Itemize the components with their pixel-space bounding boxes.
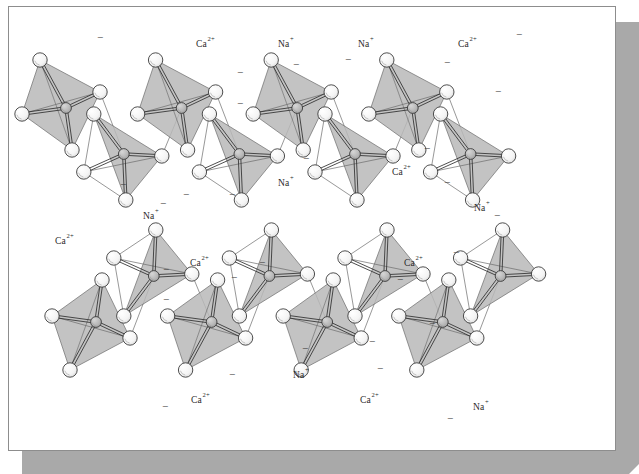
oxygen-atom — [185, 267, 199, 281]
charge-minus-mark: − — [259, 256, 265, 268]
silicon-atom — [234, 149, 245, 160]
silicon-atom — [437, 317, 448, 328]
ion-label-ca: Ca2+ — [360, 390, 379, 405]
oxygen-atom — [178, 363, 192, 377]
ion-label-ca: Ca2+ — [191, 390, 210, 405]
oxygen-atom — [442, 273, 456, 287]
oxygen-atom — [380, 223, 394, 237]
silicate-chain-diagram: −−−−−−−−−−−−−−−−−−−−−−−−−−−−−Ca2+Na+Na+C… — [0, 0, 639, 474]
oxygen-atom — [232, 309, 246, 323]
oxygen-atom — [234, 193, 248, 207]
oxygen-atom — [117, 309, 131, 323]
oxygen-atom — [192, 165, 206, 179]
charge-minus-mark: − — [293, 58, 299, 70]
oxygen-atom — [160, 309, 174, 323]
charge-minus-mark: − — [237, 97, 243, 109]
charge-minus-mark: − — [229, 188, 235, 200]
silicon-atom — [264, 271, 275, 282]
charge-minus-mark: − — [237, 66, 243, 78]
ion-label-ca: Ca2+ — [392, 162, 411, 177]
ion-label-na: Na+ — [278, 34, 294, 49]
oxygen-atom — [180, 143, 194, 157]
oxygen-atom — [33, 53, 47, 67]
silicon-atom — [118, 149, 129, 160]
oxygen-atom — [45, 309, 59, 323]
oxygen-atom — [501, 149, 515, 163]
charge-minus-mark: − — [162, 400, 168, 412]
silicon-atom — [148, 271, 159, 282]
oxygen-atom — [238, 331, 252, 345]
charge-minus-mark: − — [377, 362, 383, 374]
charge-minus-mark: − — [302, 342, 308, 354]
upper-chain — [15, 53, 516, 207]
oxygen-atom — [354, 331, 368, 345]
figure-stage: −−−−−−−−−−−−−−−−−−−−−−−−−−−−−Ca2+Na+Na+C… — [0, 0, 639, 474]
oxygen-atom — [155, 149, 169, 163]
oxygen-atom — [264, 223, 278, 237]
charge-minus-mark: − — [345, 53, 351, 65]
silicon-atom — [465, 149, 476, 160]
oxygen-atom — [65, 143, 79, 157]
charge-minus-mark: − — [494, 209, 500, 221]
charge-minus-mark: − — [369, 335, 375, 347]
silicon-atom — [380, 271, 391, 282]
charge-minus-mark: − — [397, 273, 403, 285]
oxygen-atom — [77, 165, 91, 179]
oxygen-atom — [300, 267, 314, 281]
ion-label-na: Na+ — [358, 34, 374, 49]
oxygen-atom — [386, 149, 400, 163]
silicon-atom — [176, 103, 187, 114]
oxygen-atom — [326, 273, 340, 287]
oxygen-atom — [208, 85, 222, 99]
charge-minus-mark: − — [229, 368, 235, 380]
oxygen-atom — [107, 251, 121, 265]
silicon-atom — [292, 103, 303, 114]
oxygen-atom — [210, 273, 224, 287]
oxygen-atom — [15, 107, 29, 121]
charge-minus-mark: − — [160, 197, 166, 209]
oxygen-atom — [149, 223, 163, 237]
oxygen-atom — [531, 267, 545, 281]
charge-minus-mark: − — [231, 271, 237, 283]
oxygen-atom — [202, 107, 216, 121]
oxygen-atom — [495, 223, 509, 237]
oxygen-atom — [318, 107, 332, 121]
oxygen-atom — [423, 165, 437, 179]
charge-minus-mark: − — [429, 317, 435, 329]
ion-label-ca: Ca2+ — [196, 34, 215, 49]
silicon-atom — [206, 317, 217, 328]
oxygen-atom — [270, 149, 284, 163]
oxygen-atom — [416, 267, 430, 281]
charge-minus-mark: − — [447, 412, 453, 424]
silicon-atom — [61, 103, 72, 114]
oxygen-atom — [433, 107, 447, 121]
ion-label-na: Na+ — [143, 206, 159, 221]
oxygen-atom — [222, 251, 236, 265]
silicon-atom — [350, 149, 361, 160]
oxygen-atom — [123, 331, 137, 345]
charge-minus-mark: − — [444, 176, 450, 188]
oxygen-atom — [463, 309, 477, 323]
ion-label-ca: Ca2+ — [190, 253, 209, 268]
oxygen-atom — [308, 165, 322, 179]
oxygen-atom — [63, 363, 77, 377]
charge-minus-mark: − — [97, 31, 103, 43]
oxygen-atom — [148, 53, 162, 67]
oxygen-atom — [380, 53, 394, 67]
silicon-atom — [495, 271, 506, 282]
oxygen-atom — [392, 309, 406, 323]
oxygen-atom — [338, 251, 352, 265]
oxygen-atom — [362, 107, 376, 121]
oxygen-atom — [440, 85, 454, 99]
charge-minus-mark: − — [424, 142, 430, 154]
silicon-atom — [91, 317, 102, 328]
oxygen-atom — [87, 107, 101, 121]
charge-minus-mark: − — [444, 56, 450, 68]
ion-label-ca: Ca2+ — [458, 34, 477, 49]
oxygen-atom — [130, 107, 144, 121]
oxygen-atom — [348, 309, 362, 323]
ion-label-na: Na+ — [473, 397, 489, 412]
oxygen-atom — [470, 331, 484, 345]
ion-label-ca: Ca2+ — [55, 231, 74, 246]
silicon-atom — [407, 103, 418, 114]
